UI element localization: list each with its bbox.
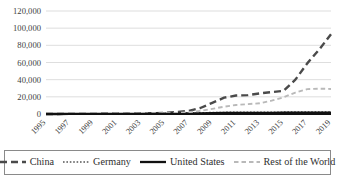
- series-line-rest-of-the-world: [46, 89, 331, 114]
- xtick-label: 1995: [29, 118, 47, 136]
- ytick-label: 100,000: [13, 23, 41, 33]
- xtick-label: 1997: [53, 118, 71, 136]
- legend-item-china[interactable]: China: [0, 157, 54, 167]
- xtick-label: 2011: [219, 118, 237, 136]
- long-dash-swatch: [0, 158, 26, 166]
- chart-legend: ChinaGermanyUnited StatesRest of the Wor…: [4, 150, 331, 175]
- xtick-label: 2017: [290, 118, 308, 136]
- xtick-label: 2015: [267, 118, 285, 136]
- xtick-label: 2005: [148, 118, 166, 136]
- legend-label: China: [30, 157, 54, 167]
- ytick-label: 80,000: [17, 40, 41, 50]
- xtick-labels-group: 1995199719992001200320052007200920112013…: [29, 118, 332, 136]
- ytick-label: 60,000: [17, 58, 41, 68]
- gridlines-group: [46, 11, 331, 114]
- legend-item-rest-of-the-world[interactable]: Rest of the World: [234, 157, 336, 167]
- legend-item-united-states[interactable]: United States: [140, 157, 225, 167]
- ytick-label: 120,000: [13, 6, 41, 16]
- legend-label: Rest of the World: [264, 157, 336, 167]
- line-chart: 020,00040,00060,00080,000100,000120,000 …: [0, 0, 337, 180]
- legend-item-germany[interactable]: Germany: [63, 157, 131, 167]
- xtick-label: 2009: [195, 118, 213, 136]
- solid-swatch: [140, 158, 166, 166]
- legend-label: United States: [170, 157, 225, 167]
- plot-area: 020,00040,00060,00080,000100,000120,000 …: [0, 0, 337, 145]
- plot-svg: 020,00040,00060,00080,000100,000120,000 …: [0, 0, 337, 145]
- ytick-label: 40,000: [17, 75, 41, 85]
- dotted-swatch: [63, 158, 89, 166]
- legend-label: Germany: [93, 157, 131, 167]
- xtick-label: 2007: [172, 118, 190, 136]
- xtick-label: 1999: [77, 118, 95, 136]
- xtick-label: 2001: [100, 118, 118, 136]
- series-line-china: [46, 34, 331, 114]
- xtick-label: 2019: [314, 118, 332, 136]
- xtick-label: 2003: [124, 118, 142, 136]
- xtick-label: 2013: [243, 118, 261, 136]
- series-group: [46, 34, 331, 114]
- ytick-labels-group: 020,00040,00060,00080,000100,000120,000: [13, 6, 41, 119]
- ytick-label: 20,000: [17, 92, 41, 102]
- dash-swatch: [234, 158, 260, 166]
